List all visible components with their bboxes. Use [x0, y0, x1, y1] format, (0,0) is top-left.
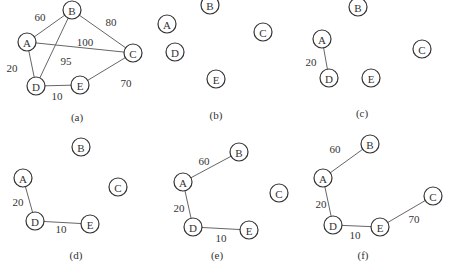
node-a: A [314, 169, 332, 187]
node-e: E [81, 215, 99, 233]
node-label: E [77, 80, 84, 92]
node-label: D [32, 81, 40, 93]
edge-weight-label: 60 [199, 155, 211, 167]
node-a: A [313, 30, 331, 48]
edge-weight-label: 10 [56, 223, 68, 235]
node-label: E [87, 219, 94, 231]
node-label: C [418, 44, 425, 56]
node-label: E [377, 222, 384, 234]
panel-b: ABCDE(b) [158, 0, 272, 122]
panel-caption: (c) [356, 107, 369, 120]
node-d: D [27, 77, 45, 95]
node-label: B [235, 147, 242, 159]
node-label: A [23, 37, 31, 49]
node-label: B [354, 2, 361, 14]
edge-weight-label: 95 [61, 55, 73, 67]
node-c: C [424, 187, 442, 205]
panel-d: 2010ABCDE(d) [13, 138, 128, 262]
node-label: C [429, 191, 436, 203]
node-d: D [166, 43, 184, 61]
node-label: B [77, 142, 84, 154]
node-label: D [325, 73, 333, 85]
node-label: B [366, 139, 373, 151]
node-d: D [26, 212, 44, 230]
node-e: E [362, 69, 380, 87]
node-c: C [109, 178, 127, 196]
node-c: C [254, 23, 272, 41]
node-label: D [189, 222, 197, 234]
node-d: D [320, 69, 338, 87]
node-d: D [184, 218, 202, 236]
node-b: B [361, 135, 379, 153]
node-label: B [206, 0, 213, 12]
node-b: B [230, 143, 248, 161]
edge-weight-label: 20 [306, 56, 318, 68]
node-a: A [14, 169, 32, 187]
panel-c: 20ABCDE(c) [306, 0, 432, 120]
node-a: A [18, 33, 36, 51]
edge-weight-label: 10 [350, 229, 362, 241]
panel-caption: (b) [210, 109, 223, 122]
node-label: A [19, 173, 27, 185]
edge-weight-label: 60 [35, 11, 47, 23]
panel-e: 602010ABCDE(e) [174, 143, 289, 262]
panel-a: 608010095201070ABCDE(a) [7, 1, 143, 124]
node-e: E [71, 76, 89, 94]
node-a: A [174, 173, 192, 191]
node-b: B [63, 1, 81, 19]
node-label: E [246, 225, 253, 237]
node-e: E [371, 218, 389, 236]
edge-weight-label: 10 [216, 232, 228, 244]
node-label: A [319, 173, 327, 185]
node-label: C [259, 27, 266, 39]
node-b: B [201, 0, 219, 14]
node-c: C [413, 40, 431, 58]
panel-caption: (e) [211, 249, 224, 262]
edge-weight-label: 20 [316, 198, 328, 210]
panel-caption: (a) [71, 111, 84, 124]
graph-figure: 608010095201070ABCDE(a)ABCDE(b)20ABCDE(c… [0, 0, 451, 277]
edge-weight-label: 20 [7, 62, 19, 74]
node-label: C [114, 182, 121, 194]
node-c: C [270, 184, 288, 202]
node-label: E [368, 73, 375, 85]
edge-weight-label: 60 [330, 143, 342, 155]
node-b: B [72, 138, 90, 156]
node-label: D [31, 216, 39, 228]
node-label: D [329, 220, 337, 232]
edge-weight-label: 70 [121, 77, 133, 89]
edge-weight-label: 20 [174, 202, 186, 214]
edge-weight-label: 10 [52, 90, 64, 102]
node-label: C [275, 188, 282, 200]
node-e: E [207, 70, 225, 88]
node-label: B [68, 5, 75, 17]
node-d: D [324, 216, 342, 234]
node-b: B [349, 0, 367, 16]
edge-weight-label: 80 [106, 16, 118, 28]
node-label: A [163, 19, 171, 31]
edge-weight-label: 100 [77, 36, 94, 48]
node-a: A [158, 15, 176, 33]
edge-weight-label: 20 [13, 196, 25, 208]
panel-f: 60201070ABCDE(f) [314, 135, 442, 262]
node-label: E [213, 74, 220, 86]
edge-weight-label: 70 [409, 213, 421, 225]
node-label: A [318, 34, 326, 46]
node-label: D [171, 47, 179, 59]
node-c: C [124, 44, 142, 62]
node-label: A [179, 177, 187, 189]
node-e: E [240, 221, 258, 239]
panel-caption: (d) [70, 249, 83, 262]
panel-caption: (f) [358, 249, 369, 262]
node-label: C [129, 48, 136, 60]
